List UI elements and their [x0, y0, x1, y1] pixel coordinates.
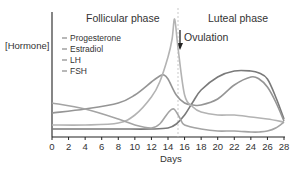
ovulation-label: Ovulation	[184, 31, 229, 43]
legend-label-lh: LH	[70, 55, 81, 65]
x-tick-label: 24	[246, 141, 257, 152]
x-tick-label: 0	[49, 141, 54, 152]
x-axis-label: Days	[160, 153, 182, 164]
x-tick-label: 26	[262, 141, 273, 152]
legend-label-estradiol: Estradiol	[70, 44, 103, 54]
follicular-phase-label: Follicular phase	[86, 12, 160, 24]
legend-label-fsh: FSH	[70, 66, 87, 76]
hormone-cycle-chart: Follicular phase Luteal phase [Hormone] …	[0, 0, 298, 176]
x-tick-label: 20	[212, 141, 223, 152]
x-tick-label: 28	[279, 141, 290, 152]
x-tick-label: 2	[66, 141, 71, 152]
x-tick-label: 10	[130, 141, 141, 152]
x-tick-label: 8	[116, 141, 121, 152]
x-tick-label: 22	[229, 141, 240, 152]
legend: Progesterone Estradiol LH FSH	[62, 33, 121, 76]
x-tick-label: 12	[146, 141, 157, 152]
y-axis-label: [Hormone]	[5, 40, 49, 51]
x-tick-label: 16	[179, 141, 190, 152]
x-tick-label: 4	[82, 141, 87, 152]
x-tick-label: 14	[163, 141, 174, 152]
x-tick-label: 6	[99, 141, 104, 152]
legend-label-progesterone: Progesterone	[70, 33, 121, 43]
x-axis-ticks: 0246810121416182022242628	[49, 137, 289, 152]
luteal-phase-label: Luteal phase	[208, 12, 268, 24]
x-tick-label: 18	[196, 141, 207, 152]
